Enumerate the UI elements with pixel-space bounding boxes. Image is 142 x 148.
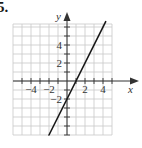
y-tick-label: 4 [57,39,63,51]
x-tick-label: 4 [100,83,106,95]
y-axis-arrow-icon [64,12,71,21]
coordinate-plane: −4−22442−2xy [0,0,142,148]
x-tick-label: 2 [82,83,88,95]
x-tick-label: −4 [25,83,37,95]
x-axis-label: x [127,83,133,95]
y-tick-label: 2 [57,57,63,69]
y-tick-label: −2 [50,93,62,105]
y-axis-label: y [55,10,61,22]
grid [13,24,112,135]
